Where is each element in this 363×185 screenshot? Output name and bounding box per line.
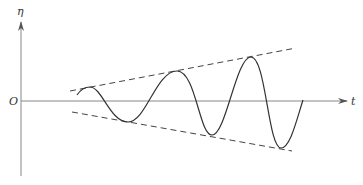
lower-envelope-line [72,112,292,151]
eta-axis-label: η [17,5,24,18]
t-axis-label: t [351,95,356,108]
upper-envelope-line [70,48,296,91]
origin-label: O [9,95,18,108]
oscillation-curve [77,57,303,148]
diagram-canvas: η O t [0,0,363,185]
